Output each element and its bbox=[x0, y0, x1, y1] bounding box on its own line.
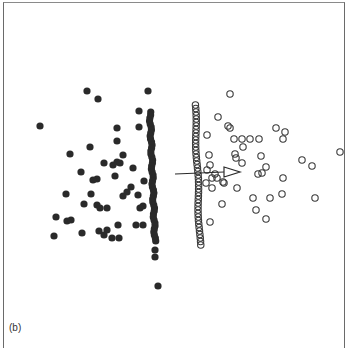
filled-point bbox=[114, 221, 121, 228]
filled-point bbox=[111, 172, 118, 179]
open-point bbox=[253, 207, 259, 213]
filled-point bbox=[135, 107, 142, 114]
open-point bbox=[240, 144, 246, 150]
open-point bbox=[231, 136, 237, 142]
open-point bbox=[206, 152, 212, 158]
arrow-icon bbox=[175, 167, 240, 177]
open-point bbox=[209, 185, 215, 191]
filled-point bbox=[139, 221, 146, 228]
filled-point bbox=[119, 151, 126, 158]
filled-point bbox=[36, 122, 43, 129]
filled-point bbox=[119, 192, 126, 199]
filled-point bbox=[87, 190, 94, 197]
filled-point bbox=[135, 123, 142, 130]
open-point bbox=[227, 91, 233, 97]
filled-point bbox=[96, 204, 103, 211]
filled-point bbox=[151, 253, 158, 260]
open-point bbox=[239, 136, 245, 142]
open-point bbox=[203, 180, 209, 186]
open-point bbox=[250, 195, 256, 201]
filled-point bbox=[132, 221, 139, 228]
open-point bbox=[219, 201, 225, 207]
open-point bbox=[259, 170, 265, 176]
filled-point bbox=[129, 164, 136, 171]
open-point bbox=[256, 136, 262, 142]
open-point bbox=[263, 216, 269, 222]
filled-point bbox=[152, 237, 159, 244]
filled-point bbox=[108, 234, 115, 241]
filled-point bbox=[136, 204, 143, 211]
filled-point bbox=[80, 200, 87, 207]
open-point bbox=[204, 132, 210, 138]
panel-label: (b) bbox=[9, 322, 21, 333]
filled-point bbox=[113, 124, 120, 131]
filled-point bbox=[140, 177, 147, 184]
filled-point bbox=[50, 232, 57, 239]
filled-point bbox=[100, 231, 107, 238]
open-point bbox=[234, 185, 240, 191]
filled-point bbox=[144, 87, 151, 94]
open-point bbox=[312, 195, 318, 201]
open-point bbox=[273, 125, 279, 131]
open-point bbox=[239, 160, 245, 166]
filled-point bbox=[67, 216, 74, 223]
filled-point bbox=[83, 87, 90, 94]
open-point bbox=[279, 191, 285, 197]
filled-point bbox=[109, 161, 116, 168]
open-point bbox=[207, 219, 213, 225]
open-point bbox=[233, 155, 239, 161]
filled-point bbox=[151, 246, 158, 253]
open-point bbox=[337, 149, 343, 155]
filled-point bbox=[100, 159, 107, 166]
open-point bbox=[280, 136, 286, 142]
filled-point bbox=[66, 150, 73, 157]
open-point bbox=[280, 175, 286, 181]
open-points bbox=[192, 91, 343, 248]
open-point bbox=[309, 163, 315, 169]
open-point bbox=[258, 153, 264, 159]
open-point bbox=[247, 136, 253, 142]
open-point bbox=[215, 114, 221, 120]
filled-point bbox=[134, 191, 141, 198]
filled-point bbox=[86, 143, 93, 150]
filled-point bbox=[154, 282, 161, 289]
filled-point bbox=[103, 204, 110, 211]
open-point bbox=[267, 195, 273, 201]
filled-point bbox=[116, 159, 123, 166]
filled-point bbox=[52, 213, 59, 220]
filled-point bbox=[113, 137, 120, 144]
open-point bbox=[263, 164, 269, 170]
filled-point bbox=[78, 229, 85, 236]
filled-points bbox=[36, 87, 161, 289]
filled-point bbox=[94, 95, 101, 102]
filled-point bbox=[77, 168, 84, 175]
open-point bbox=[299, 157, 305, 163]
filled-point bbox=[62, 190, 69, 197]
filled-point bbox=[115, 234, 122, 241]
open-point bbox=[282, 129, 288, 135]
filled-point bbox=[89, 176, 96, 183]
